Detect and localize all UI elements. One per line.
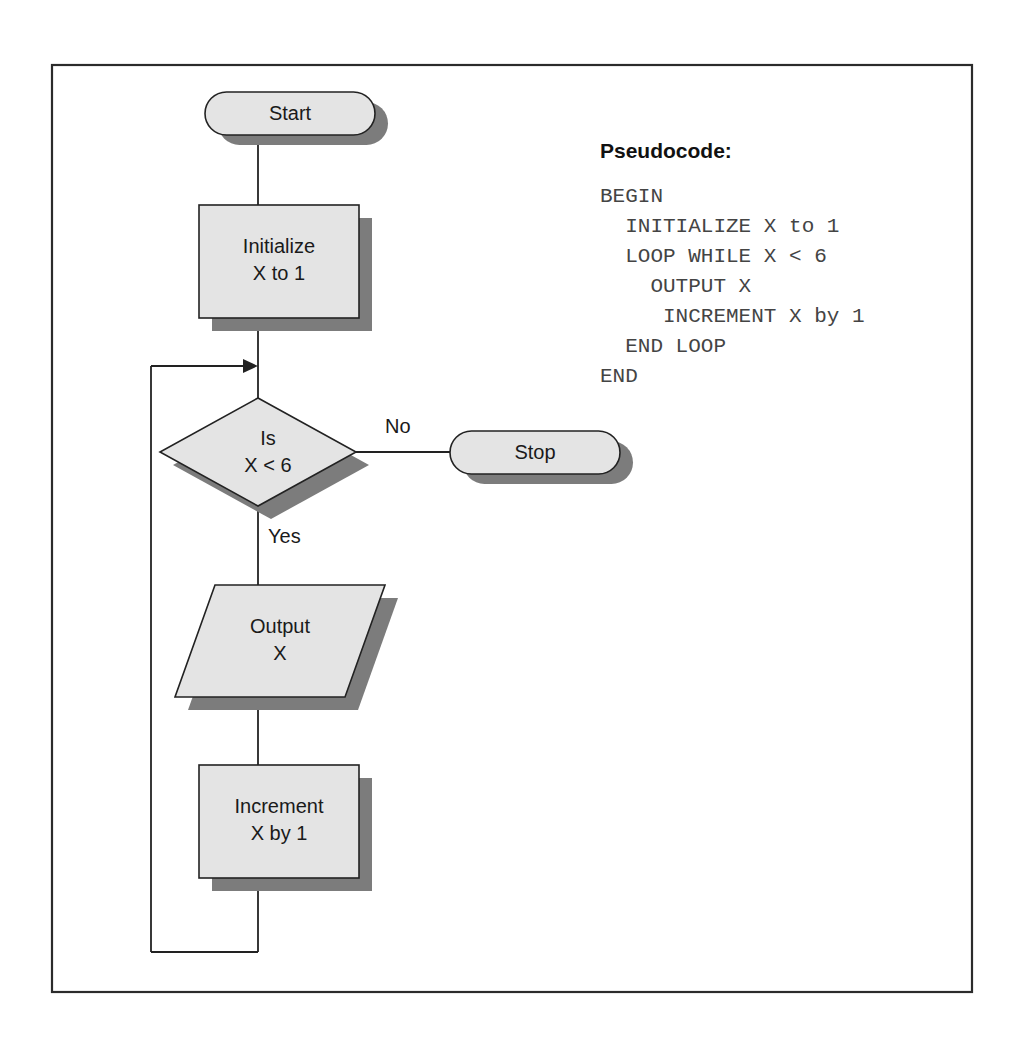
edge-label-no: No <box>385 415 411 437</box>
flowchart-figure: Start Initialize X to 1 Is X < 6 No Yes … <box>0 0 1020 1039</box>
increment-label-line2: X by 1 <box>251 822 308 844</box>
decision-shape <box>160 398 356 506</box>
loopback-arrow-icon <box>243 359 258 373</box>
decision-label-line1: Is <box>260 427 276 449</box>
node-decision[interactable]: Is X < 6 <box>160 398 369 519</box>
figure-frame <box>52 65 972 992</box>
node-increment[interactable]: Increment X by 1 <box>199 765 372 891</box>
node-initialize[interactable]: Initialize X to 1 <box>199 205 372 331</box>
initialize-label-line1: Initialize <box>243 235 315 257</box>
stop-label: Stop <box>514 441 555 463</box>
edge-label-yes: Yes <box>268 525 301 547</box>
pseudocode-line-6: END LOOP <box>600 335 726 358</box>
node-start[interactable]: Start <box>205 92 388 145</box>
output-label-line2: X <box>273 642 286 664</box>
start-label: Start <box>269 102 312 124</box>
pseudocode-block: Pseudocode: BEGIN INITIALIZE X to 1 LOOP… <box>600 139 865 388</box>
node-stop[interactable]: Stop <box>450 431 633 484</box>
pseudocode-line-1: BEGIN <box>600 185 663 208</box>
pseudocode-line-3: LOOP WHILE X < 6 <box>600 245 827 268</box>
pseudocode-line-5: INCREMENT X by 1 <box>600 305 865 328</box>
output-label-line1: Output <box>250 615 310 637</box>
initialize-label-line2: X to 1 <box>253 262 305 284</box>
increment-label-line1: Increment <box>235 795 324 817</box>
pseudocode-line-4: OUTPUT X <box>600 275 752 298</box>
pseudocode-line-7: END <box>600 365 638 388</box>
decision-label-line2: X < 6 <box>244 454 291 476</box>
flowchart-canvas: Start Initialize X to 1 Is X < 6 No Yes … <box>0 0 1020 1039</box>
pseudocode-title: Pseudocode: <box>600 139 732 162</box>
pseudocode-line-2: INITIALIZE X to 1 <box>600 215 839 238</box>
node-output[interactable]: Output X <box>175 585 398 710</box>
